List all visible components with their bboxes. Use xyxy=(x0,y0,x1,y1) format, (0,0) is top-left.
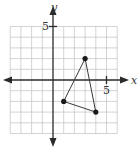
x-axis-label: x xyxy=(131,74,138,87)
x-tick-label: 5 xyxy=(103,84,110,97)
y-axis-down-arrow-icon xyxy=(50,138,57,147)
x-axis-left-arrow-icon xyxy=(3,77,12,84)
triangle-edges xyxy=(64,59,96,113)
y-axis-label: y xyxy=(50,1,58,14)
y-tick-label: 5 xyxy=(42,20,49,33)
x-axis-right-arrow-icon xyxy=(120,77,129,84)
triangle xyxy=(61,56,98,115)
vertex-point xyxy=(61,99,66,104)
coordinate-plane: 5 x 5 y xyxy=(0,0,140,153)
vertex-point xyxy=(93,110,98,115)
y-axis: 5 y xyxy=(42,1,58,147)
vertex-point xyxy=(83,56,88,61)
x-axis: 5 x xyxy=(3,74,138,97)
